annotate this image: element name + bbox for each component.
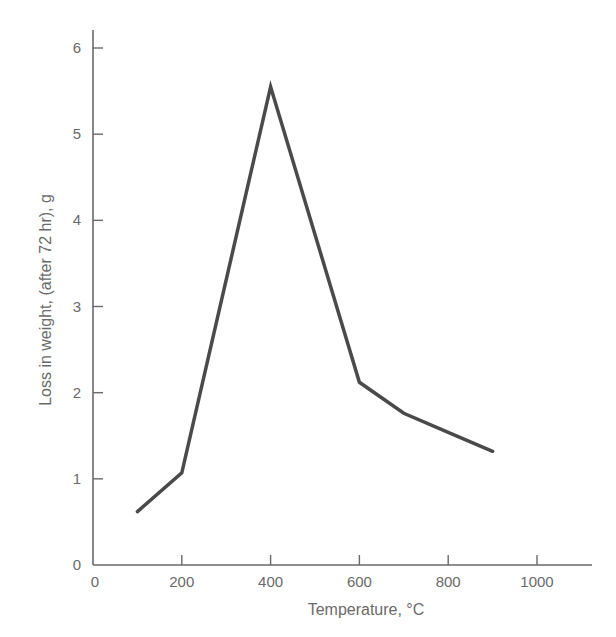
x-tick-label: 1000 <box>520 573 553 590</box>
x-tick-label: 600 <box>347 573 372 590</box>
y-tick-label: 0 <box>73 556 81 573</box>
x-axis-ticks: 02004006008001000 <box>91 555 554 590</box>
y-tick-label: 1 <box>73 470 81 487</box>
x-tick-label: 200 <box>169 573 194 590</box>
x-axis-label: Temperature, °C <box>308 601 425 618</box>
data-series-line <box>137 87 492 512</box>
y-tick-label: 6 <box>73 39 81 56</box>
x-tick-label: 0 <box>91 573 99 590</box>
line-chart: 0123456 02004006008001000 Temperature, °… <box>0 0 616 637</box>
y-tick-label: 5 <box>73 125 81 142</box>
x-tick-label: 800 <box>436 573 461 590</box>
x-tick-label: 400 <box>258 573 283 590</box>
y-tick-label: 3 <box>73 298 81 315</box>
y-tick-label: 4 <box>73 211 81 228</box>
y-tick-label: 2 <box>73 384 81 401</box>
y-axis-ticks: 0123456 <box>73 39 103 573</box>
y-axis-label: Loss in weight, (after 72 hr), g <box>37 194 54 406</box>
